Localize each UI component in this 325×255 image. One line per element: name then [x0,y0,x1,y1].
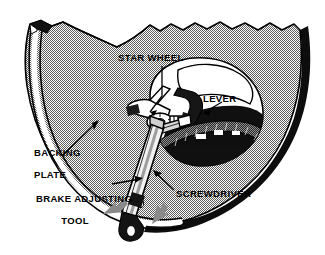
drum-detail-c [232,131,240,135]
callout-screwdriver: SCREWDRIVER [176,188,251,199]
drum-detail-a [196,134,206,139]
brake-adjuster-illustration: STAR WHEEL LEVER BACKING PLATE BRAKE ADJ… [0,0,325,255]
callout-star-wheel: STAR WHEEL [118,52,184,63]
callout-backing-plate-line2: PLATE [34,169,66,180]
callout-tool-line2: TOOL [61,215,89,226]
callout-brake-adjusting-tool: BRAKE ADJUSTING TOOL [24,182,114,237]
callout-backing-plate-line1: BACKING [34,147,81,158]
drum-detail-b [214,130,223,135]
callout-tool-line1: BRAKE ADJUSTING [36,193,132,204]
callout-lever: LEVER [203,93,236,104]
tool-handle-hole-lower [127,226,136,237]
